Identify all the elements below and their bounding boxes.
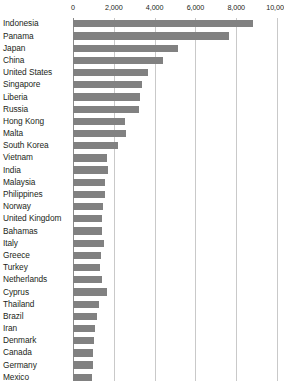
bar — [73, 69, 148, 76]
bar-row: Malaysia — [0, 176, 284, 188]
bar — [73, 252, 101, 259]
bar-row: United Kingdom — [0, 213, 284, 225]
category-label: Cyprus — [3, 287, 29, 298]
bar-row: Panama — [0, 30, 284, 42]
bar — [73, 20, 253, 27]
bar — [73, 106, 139, 113]
bar — [73, 337, 94, 344]
category-label: Mexico — [3, 372, 29, 381]
category-label: Vietnam — [3, 152, 33, 163]
x-axis-tick-label: 2,000 — [105, 4, 123, 12]
x-axis-tick-labels: 02,0004,0006,0008,00010,000 — [0, 0, 284, 18]
category-label: Malta — [3, 128, 23, 139]
bar-row: Canada — [0, 347, 284, 359]
bar-row: Greece — [0, 250, 284, 262]
bar — [73, 130, 126, 137]
bar — [73, 215, 102, 222]
category-label: Philippines — [3, 189, 43, 200]
category-label: United Kingdom — [3, 213, 61, 224]
bar — [73, 361, 93, 368]
x-axis-tick-label: 6,000 — [187, 4, 205, 12]
bar — [73, 81, 142, 88]
bar-row: Japan — [0, 42, 284, 54]
bar-row: Netherlands — [0, 274, 284, 286]
bar-row: Vietnam — [0, 152, 284, 164]
bar-chart: 02,0004,0006,0008,00010,000 IndonesiaPan… — [0, 0, 284, 381]
category-label: Brazil — [3, 311, 23, 322]
bar-row: Russia — [0, 103, 284, 115]
bar — [73, 264, 100, 271]
bar — [73, 57, 163, 64]
bar-rows: IndonesiaPanamaJapanChinaUnited StatesSi… — [0, 18, 284, 381]
bar — [73, 154, 107, 161]
category-label: Netherlands — [3, 274, 47, 285]
category-label: Singapore — [3, 79, 40, 90]
bar — [73, 313, 97, 320]
category-label: Canada — [3, 347, 32, 358]
category-label: South Korea — [3, 140, 49, 151]
category-label: Germany — [3, 360, 37, 371]
bar-row: Norway — [0, 201, 284, 213]
bar-row: India — [0, 164, 284, 176]
bar-row: Brazil — [0, 311, 284, 323]
bar-row: Philippines — [0, 189, 284, 201]
bar — [73, 203, 103, 210]
bar — [73, 179, 105, 186]
bar — [73, 45, 178, 52]
category-label: China — [3, 55, 24, 66]
bar — [73, 240, 104, 247]
bar — [73, 32, 229, 39]
bar — [73, 118, 125, 125]
bar-row: Singapore — [0, 79, 284, 91]
bar-row: Hong Kong — [0, 116, 284, 128]
x-axis-tick-label: 4,000 — [146, 4, 164, 12]
bar-row: Italy — [0, 237, 284, 249]
bar-row: Turkey — [0, 262, 284, 274]
bar — [73, 227, 102, 234]
category-label: Norway — [3, 201, 31, 212]
bar-row: Bahamas — [0, 225, 284, 237]
bar — [73, 349, 93, 356]
category-label: Liberia — [3, 92, 28, 103]
bar — [73, 325, 95, 332]
bar-row: Germany — [0, 359, 284, 371]
bar — [73, 374, 92, 381]
category-label: Turkey — [3, 262, 28, 273]
bar-row: United States — [0, 67, 284, 79]
bar-row: Thailand — [0, 298, 284, 310]
bar — [73, 93, 140, 100]
bar-row: Denmark — [0, 335, 284, 347]
bar-row: China — [0, 55, 284, 67]
bar-row: Iran — [0, 323, 284, 335]
category-label: Russia — [3, 104, 28, 115]
category-label: United States — [3, 67, 52, 78]
category-label: Iran — [3, 323, 17, 334]
category-label: Bahamas — [3, 226, 38, 237]
x-axis-tick-label: 0 — [71, 4, 75, 12]
category-label: India — [3, 165, 21, 176]
bar — [73, 142, 118, 149]
category-label: Indonesia — [3, 18, 39, 29]
bar-row: Liberia — [0, 91, 284, 103]
category-label: Japan — [3, 43, 25, 54]
category-label: Denmark — [3, 335, 36, 346]
bar — [73, 276, 102, 283]
bar-row: Malta — [0, 128, 284, 140]
bar — [73, 288, 107, 295]
category-label: Thailand — [3, 299, 34, 310]
category-label: Greece — [3, 250, 30, 261]
category-label: Malaysia — [3, 177, 35, 188]
x-axis-tick-label: 10,000 — [266, 4, 284, 12]
category-label: Panama — [3, 31, 34, 42]
category-label: Hong Kong — [3, 116, 44, 127]
bar-row: Cyprus — [0, 286, 284, 298]
plot-area: IndonesiaPanamaJapanChinaUnited StatesSi… — [0, 18, 284, 381]
bar — [73, 166, 108, 173]
bar — [73, 191, 105, 198]
bar-row: Mexico — [0, 371, 284, 381]
bar-row: Indonesia — [0, 18, 284, 30]
x-axis-tick-label: 8,000 — [227, 4, 245, 12]
bar — [73, 301, 99, 308]
bar-row: South Korea — [0, 140, 284, 152]
category-label: Italy — [3, 238, 18, 249]
